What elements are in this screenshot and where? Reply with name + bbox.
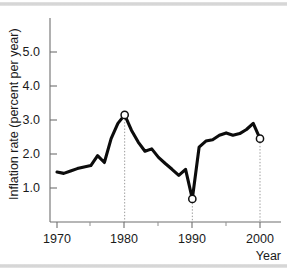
y-tick-label-1: 1.0 (23, 181, 40, 195)
inflation-rate-chart: Inflation rate (percent per year) 1.0 2.… (0, 0, 287, 272)
inflation-line-series (57, 115, 260, 199)
y-tick-labels: 1.0 2.0 3.0 4.0 5.0 (23, 45, 40, 195)
x-tick-labels: 1970 1980 1990 2000 (43, 232, 274, 246)
marker-2000 (256, 135, 263, 142)
x-tick-label-1970: 1970 (43, 232, 71, 246)
x-tick-label-2000: 2000 (246, 232, 274, 246)
y-axis-title: Inflation rate (percent per year) (7, 28, 21, 200)
marker-1990 (189, 195, 196, 202)
y-tick-label-4: 4.0 (23, 79, 40, 93)
y-axis-ticks (50, 52, 57, 188)
y-tick-label-3: 3.0 (23, 113, 40, 127)
chart-canvas: Inflation rate (percent per year) 1.0 2.… (0, 0, 287, 272)
marker-1980 (121, 111, 128, 118)
x-tick-label-1990: 1990 (178, 232, 206, 246)
y-tick-label-2: 2.0 (23, 147, 40, 161)
y-tick-label-5: 5.0 (23, 45, 40, 59)
x-tick-label-1980: 1980 (110, 232, 138, 246)
x-axis-minor-ticks (90, 222, 226, 226)
x-axis-title: Year (256, 249, 281, 263)
